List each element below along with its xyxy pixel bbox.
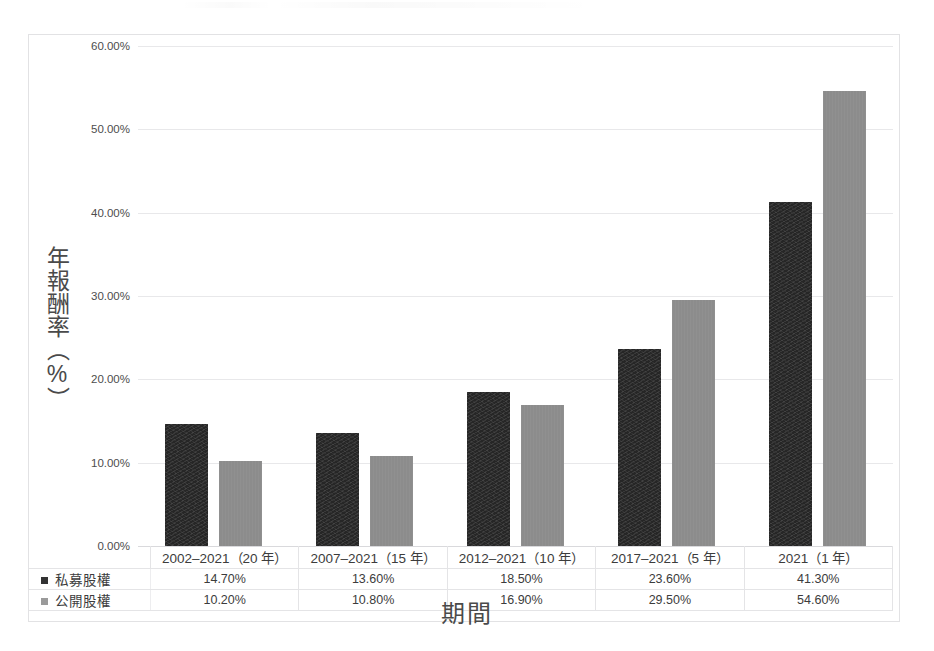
table-column-header: 2007–2021（15 年） [299,546,447,569]
table-column-header: 2012–2021（10 年） [447,546,595,569]
bar-private-equity [769,202,812,546]
legend-label: 私募股權 [55,573,111,588]
table-cell-value: 23.60% [596,569,744,590]
bar-group [742,46,893,546]
scan-artifact [180,2,600,8]
bar-group [591,46,742,546]
table-cell-value: 13.60% [299,569,447,590]
bar-public-equity [672,300,715,546]
bar-public-equity [219,461,262,546]
table-cell-value: 18.50% [447,569,595,590]
bar-public-equity [370,456,413,546]
bar-private-equity [618,349,661,546]
bar-private-equity [316,433,359,546]
y-axis-tick-label: 50.00% [91,123,130,135]
bar-public-equity [823,91,866,546]
y-axis-tick-label: 10.00% [91,457,130,469]
bar-public-equity [521,405,564,546]
table-column-header: 2017–2021（5 年） [596,546,744,569]
table-column-header: 2021（1 年） [744,546,892,569]
table-column-header: 2002–2021（20 年） [151,546,299,569]
bar-group [289,46,440,546]
y-axis-tick-label: 20.00% [91,373,130,385]
table-row: 私募股權14.70%13.60%18.50%23.60%41.30% [29,569,893,590]
legend-item-private-equity[interactable]: 私募股權 [29,569,151,590]
legend-swatch-icon [41,577,48,584]
bar-group [138,46,289,546]
y-axis-title: 年報酬率（%） [34,238,68,418]
x-axis-title: 期間 [0,594,934,629]
y-axis-tick-label: 60.00% [91,40,130,52]
plot-area: 0.00%10.00%20.00%30.00%40.00%50.00%60.00… [138,46,893,546]
y-axis-tick-label: 30.00% [91,290,130,302]
y-axis-tick-label: 40.00% [91,207,130,219]
bar-private-equity [165,424,208,547]
table-header-row: 2002–2021（20 年）2007–2021（15 年）2012–2021（… [29,546,893,569]
table-cell-value: 41.30% [744,569,892,590]
table-cell-value: 14.70% [151,569,299,590]
bar-group [440,46,591,546]
table-corner-cell [29,546,151,569]
bar-private-equity [467,392,510,546]
